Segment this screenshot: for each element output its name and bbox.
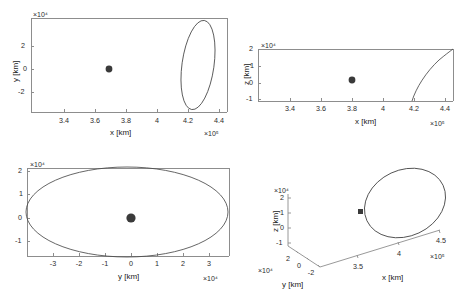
xyz-y-exponent: ×10⁴	[258, 267, 273, 274]
xyz-x-exponent: ×10⁵	[430, 253, 445, 260]
xyz-xaxis-label: x [km]	[382, 274, 403, 282]
yz-orbit-path	[26, 167, 228, 257]
xy-orbit-path	[176, 18, 220, 112]
yz-earth-marker	[126, 213, 135, 222]
xyz-ztick-label-2: 0	[280, 224, 284, 231]
xyz-x-axis-line	[320, 230, 440, 267]
xyz-ztick-label-0: 2	[280, 194, 284, 201]
xy-plot-canvas	[0, 0, 240, 150]
xyz-xtick-label-2: 4.5	[436, 237, 446, 244]
xz-orbit-path	[412, 49, 453, 101]
xz-plot-canvas	[240, 0, 465, 150]
xyz-yaxis-label: y [km]	[282, 281, 303, 289]
xyz-ztick-label-1: 1	[280, 209, 284, 216]
xyz-ztick-label-3: -1	[276, 239, 282, 246]
panel-xyz-3d-view: 2 1 0 -1 2 0 -2 3.5 4 4.5 ×10⁴ ×10⁴ ×10⁵…	[240, 150, 465, 295]
panel-yz-projection: 2 1 0 -1 -3 -2 -1 0 1 2 3 ×10⁴ ×10⁴ y [k…	[0, 150, 240, 295]
xyz-y-axis-line	[288, 246, 320, 267]
panel-xy-projection: 2 0 -2 3.4 3.6 3.8 4 4.2 4.4 ×10⁴ ×10⁵ x…	[0, 0, 240, 150]
xyz-xtick-label-1: 4	[397, 250, 401, 257]
xyz-ytick-label-0: 2	[286, 255, 290, 262]
xyz-ytick-label-1: 0	[297, 262, 301, 269]
xyz-ytick-label-2: -2	[308, 269, 314, 276]
xyz-zaxis-label: z [km]	[272, 211, 280, 232]
xy-earth-marker	[106, 66, 113, 73]
yz-plot-canvas	[0, 150, 240, 295]
xyz-z-exponent: ×10⁴	[274, 187, 289, 194]
xz-earth-marker	[349, 77, 356, 84]
panel-xz-projection: 2 1 0 -1 3.4 3.6 3.8 4 4.2 4.4 ×10⁴ ×10⁵…	[240, 0, 465, 150]
xyz-earth-marker	[358, 209, 363, 214]
xyz-xtick-label-0: 3.5	[353, 263, 363, 270]
